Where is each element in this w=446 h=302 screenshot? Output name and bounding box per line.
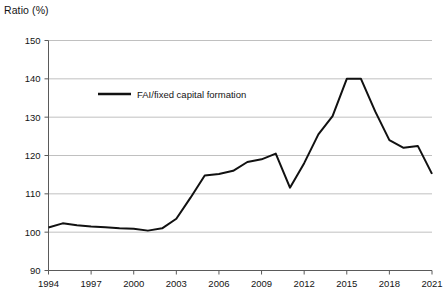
x-tick-label: 2006	[208, 278, 229, 289]
y-tick-label: 90	[30, 265, 41, 276]
chart-plot-area: 90100110120130140150 1994199720002003200…	[0, 0, 446, 302]
chart-container: Ratio (%) 90100110120130140150 199419972…	[0, 0, 446, 302]
y-tick-label: 100	[25, 227, 41, 238]
x-tick-label: 2009	[251, 278, 272, 289]
x-tick-label: 2003	[166, 278, 187, 289]
y-tick-label: 120	[25, 150, 41, 161]
y-tick-label: 140	[25, 73, 41, 84]
series-line-fai-fixed-capital-formation	[49, 79, 433, 231]
gridlines-group	[49, 41, 433, 233]
y-tick-label: 150	[25, 35, 41, 46]
x-tick-labels-group: 1994199720002003200620092012201520182021	[38, 278, 443, 289]
legend-label: FAI/fixed capital formation	[137, 89, 246, 100]
y-tick-label: 110	[25, 188, 40, 199]
x-tick-label: 2012	[294, 278, 315, 289]
tick-marks-group	[45, 41, 433, 275]
x-tick-label: 2018	[379, 278, 400, 289]
y-tick-label: 130	[25, 112, 41, 123]
x-tick-label: 1997	[81, 278, 102, 289]
x-tick-label: 2021	[421, 278, 442, 289]
x-tick-label: 2015	[336, 278, 357, 289]
y-tick-labels-group: 90100110120130140150	[25, 35, 41, 276]
x-tick-label: 2000	[123, 278, 144, 289]
x-tick-label: 1994	[38, 278, 59, 289]
